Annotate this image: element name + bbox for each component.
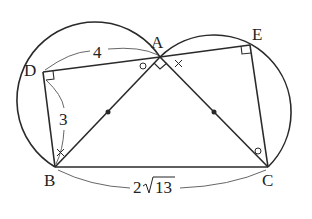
midpoint-AB-icon <box>106 110 111 115</box>
cross-mark-A-icon <box>175 60 182 67</box>
label-A: A <box>151 33 164 52</box>
label-B: B <box>44 171 55 190</box>
segment-DB <box>43 72 55 167</box>
left-circle-arc <box>17 22 160 167</box>
cross-mark-B-icon <box>57 149 64 156</box>
circle-mark-C-icon <box>255 148 261 154</box>
circle-mark-A-icon <box>140 63 146 69</box>
length-BC-radicand: 13 <box>155 178 172 197</box>
label-D: D <box>24 61 36 80</box>
label-C: C <box>262 171 273 190</box>
length-DB: 3 <box>59 110 68 129</box>
midpoint-AC-icon <box>212 110 217 115</box>
right-angle-E-icon <box>241 46 251 54</box>
length-BC: 2 13 <box>133 177 175 197</box>
label-E: E <box>252 25 262 44</box>
right-angle-D-icon <box>46 71 54 80</box>
right-angle-A-icon <box>154 63 167 69</box>
geometry-figure: D A E B C 4 3 2 13 <box>0 0 312 219</box>
length-DA: 4 <box>93 43 102 62</box>
length-BC-coef: 2 <box>133 178 142 197</box>
segment-DA <box>43 57 160 72</box>
